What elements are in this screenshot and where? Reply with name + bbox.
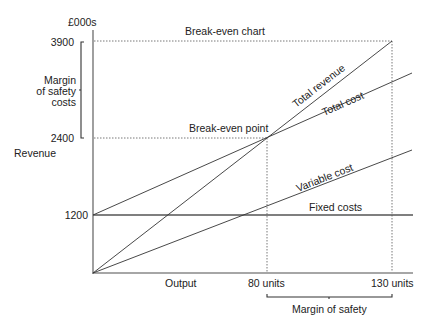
y-tick-1200: 1200 — [65, 209, 89, 221]
y-tick-3900: 3900 — [51, 36, 75, 48]
margin-of-safety-costs-bracket — [79, 42, 84, 138]
variable-cost-line — [93, 150, 412, 273]
total-revenue-line — [93, 41, 392, 273]
x-tick-80: 80 units — [248, 277, 285, 289]
x-tick-130: 130 units — [371, 277, 414, 289]
margin-of-safety-bracket — [267, 294, 392, 299]
variable-cost-label: Variable cost — [294, 161, 354, 194]
y-tick-2400: 2400 — [51, 132, 75, 144]
x-axis-label: Output — [165, 277, 197, 289]
mos-costs-label-3: costs — [51, 96, 76, 108]
break-even-chart: £000s Break-even chart 3900 2400 1200 Re… — [0, 0, 425, 325]
fixed-costs-label: Fixed costs — [309, 201, 362, 213]
chart-title: Break-even chart — [185, 25, 265, 37]
break-even-point-label: Break-even point — [189, 122, 268, 134]
margin-of-safety-label: Margin of safety — [292, 303, 367, 315]
y-axis-label: Revenue — [14, 147, 56, 159]
total-cost-label: Total cost — [320, 89, 365, 118]
total-cost-line — [93, 73, 412, 215]
y-unit-label: £000s — [68, 16, 97, 28]
